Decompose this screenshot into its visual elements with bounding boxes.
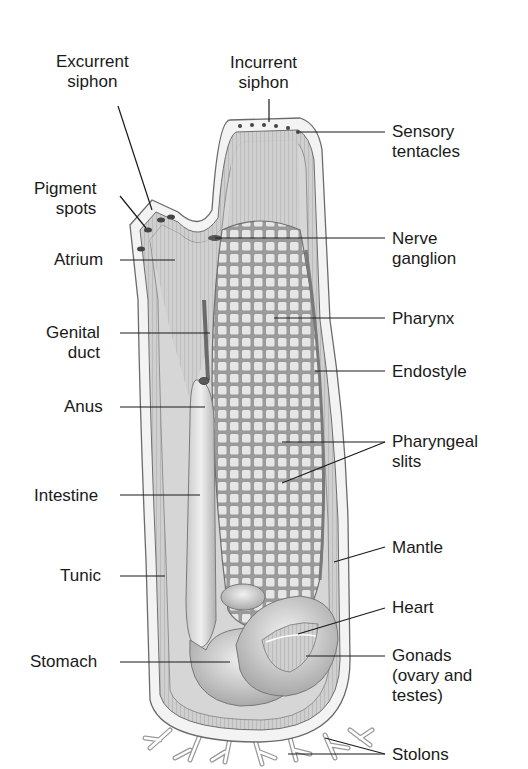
label-mantle: Mantle xyxy=(392,538,443,558)
label-heart: Heart xyxy=(392,598,434,618)
label-intestine: Intestine xyxy=(34,486,98,506)
label-gonads: Gonads (ovary and testes) xyxy=(392,646,472,706)
label-pharyngeal-slits: Pharyngeal slits xyxy=(392,432,478,472)
label-stomach: Stomach xyxy=(30,652,97,672)
intestine xyxy=(186,380,216,648)
label-pharynx: Pharynx xyxy=(392,309,454,329)
pharynx-basket xyxy=(212,221,324,630)
label-pigment-spots: Pigment spots xyxy=(34,179,96,219)
label-anus: Anus xyxy=(64,397,103,417)
label-nerve-ganglion: Nerve ganglion xyxy=(392,229,456,269)
tunicate-anatomy-diagram: Excurrent siphon Incurrent siphon Sensor… xyxy=(0,0,528,769)
label-genital-duct: Genital duct xyxy=(46,323,100,363)
label-atrium: Atrium xyxy=(54,250,103,270)
label-incurrent-siphon: Incurrent siphon xyxy=(230,53,297,93)
label-stolons: Stolons xyxy=(392,745,449,765)
label-excurrent-siphon: Excurrent siphon xyxy=(56,52,129,92)
anus xyxy=(199,378,209,385)
label-sensory-tentacles: Sensory tentacles xyxy=(392,122,460,162)
label-tunic: Tunic xyxy=(60,566,101,586)
label-endostyle: Endostyle xyxy=(392,362,467,382)
